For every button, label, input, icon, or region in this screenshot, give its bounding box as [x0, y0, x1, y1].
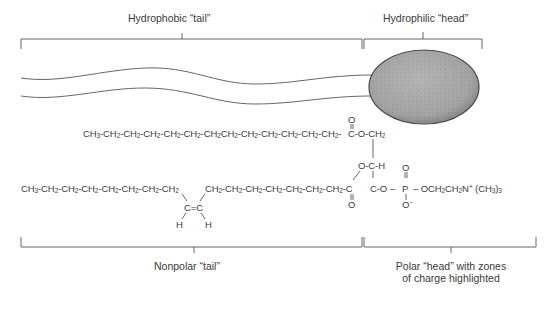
head-ellipse: [369, 50, 479, 124]
fatty-acid-chain-2a: CH3-CH2-CH2-CH2-CH2-CH2-CH2-CH2: [21, 183, 179, 194]
fatty-acid-chain-2b: CH2-CH2-CH2-CH2-CH2-CH2-CH2-C: [205, 183, 353, 194]
hydrophilic-head-label: Hydrophilic “head”: [383, 12, 468, 24]
bottom-tail-bracket: [21, 237, 362, 253]
glycerol-bottom-carbon: C-O: [370, 183, 387, 194]
nonpolar-tail-label: Nonpolar “tail”: [154, 260, 220, 272]
choline-group: – OCH2CH2N+ (CH3)3: [413, 183, 502, 194]
top-tail-bracket: [21, 33, 362, 49]
ester1-carbonyl-oxygen: O: [348, 114, 355, 125]
tail-lines: [21, 68, 372, 104]
glycerol-middle-carbon: O-C-H: [358, 160, 385, 171]
polar-head-label-line2: of charge highlighted: [381, 272, 521, 284]
phosphate-top-oxygen: O: [402, 162, 409, 173]
phosphate-charged-oxygen: O−: [402, 199, 413, 210]
cis-double-bond: C=C: [184, 202, 203, 213]
phosphorus: P: [402, 183, 408, 194]
ester1-linkage: C-O-CH2: [348, 128, 385, 139]
polar-head-label-line1: Polar “head” with zones: [381, 260, 521, 272]
ester2-carbonyl-oxygen: O: [348, 199, 355, 210]
fatty-acid-chain-1: CH3-CH2-CH2-CH2-CH2-CH2-CH2CH2-CH2-CH2-C…: [83, 128, 341, 139]
polar-head-label: Polar “head” with zones of charge highli…: [381, 260, 521, 284]
ester1-text: C-O-CH: [348, 128, 382, 139]
hydrophobic-tail-label: Hydrophobic “tail”: [128, 12, 210, 24]
top-head-bracket: [364, 32, 482, 49]
negative-charge: −: [409, 199, 413, 206]
hydrogen-right: H: [205, 219, 212, 230]
bottom-head-bracket: [364, 237, 536, 253]
phosphate-bond-left: –: [390, 183, 395, 194]
hydrogen-left: H: [176, 219, 183, 230]
ester1-sub: 2: [382, 132, 386, 139]
